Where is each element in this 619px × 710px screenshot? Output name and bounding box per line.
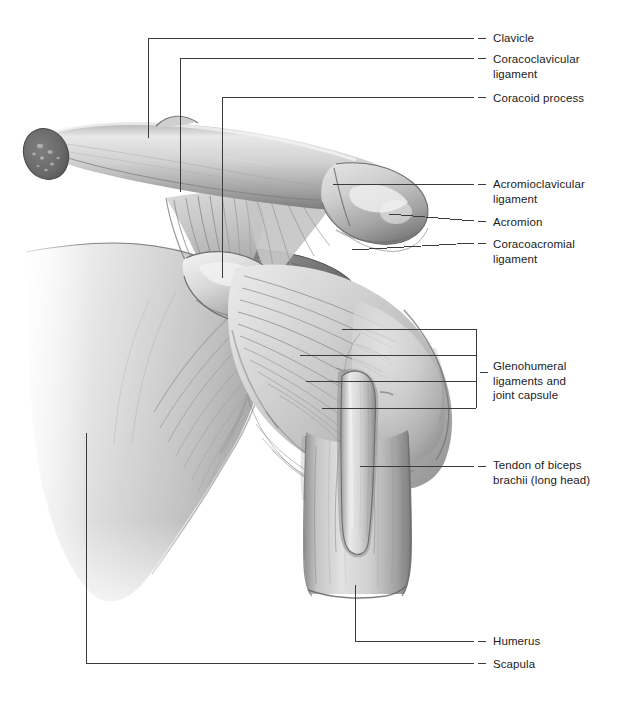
acromion-bone	[321, 163, 428, 252]
label-coracoclavicular-ligament: Coracoclavicular ligament	[493, 52, 580, 81]
leader-dash-tendon-of-biceps-brachii	[478, 466, 486, 467]
label-glenohumeral-ligaments-and-joint-capsule: Glenohumeral ligaments and joint capsule	[493, 359, 566, 403]
label-scapula: Scapula	[493, 657, 535, 672]
leader-dash-coracoid-process	[478, 97, 486, 98]
leader-dash-scapula	[478, 663, 486, 664]
leader-dash-humerus	[478, 641, 486, 642]
label-clavicle: Clavicle	[493, 31, 534, 46]
leader-dash-clavicle	[478, 38, 486, 39]
label-acromion: Acromion	[493, 215, 542, 230]
shoulder-anatomy-illustration	[0, 0, 619, 710]
leader-line-clavicle	[148, 38, 474, 138]
leader-dash-coracoclavicular-ligament	[478, 58, 486, 59]
label-coracoid-process: Coracoid process	[493, 91, 584, 106]
label-tendon-of-biceps-brachii: Tendon of biceps brachii (long head)	[493, 458, 590, 487]
leader-dash-coracoacromial-ligament	[478, 243, 486, 244]
leader-dash-acromioclavicular-ligament	[478, 184, 486, 185]
leader-dash-acromion	[478, 221, 486, 222]
leader-dash-glenohumeral	[480, 372, 488, 373]
figure-canvas: Clavicle Coracoclavicular ligament Corac…	[0, 0, 619, 710]
label-humerus: Humerus	[493, 634, 540, 649]
label-acromioclavicular-ligament: Acromioclavicular ligament	[493, 177, 585, 206]
label-coracoacromial-ligament: Coracoacromial ligament	[493, 237, 575, 266]
leader-line-coracoacromial-ligament	[352, 243, 474, 250]
